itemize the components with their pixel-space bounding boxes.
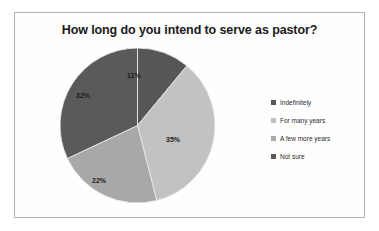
legend-marker-icon	[271, 154, 276, 159]
chart-legend: Indefinitely For many years A few more y…	[271, 95, 363, 167]
slice-label-indefinitely: 11%	[127, 72, 141, 79]
chart-frame: How long do you intend to serve as pasto…	[14, 12, 365, 218]
legend-item-for-many-years[interactable]: For many years	[271, 113, 363, 128]
legend-item-indefinitely[interactable]: Indefinitely	[271, 95, 363, 110]
legend-item-label: For many years	[280, 117, 325, 124]
slice-label-for-many-years: 35%	[166, 136, 180, 143]
legend-item-label: A few more years	[280, 135, 330, 142]
legend-item-a-few-more-years[interactable]: A few more years	[271, 131, 363, 146]
pie-chart: 11% 35% 22% 32%	[60, 48, 220, 208]
legend-item-label: Indefinitely	[280, 99, 311, 106]
slice-label-not-sure: 32%	[76, 92, 90, 99]
legend-marker-icon	[271, 136, 276, 141]
slice-label-a-few-more-years: 22%	[92, 177, 106, 184]
legend-item-label: Not sure	[280, 153, 305, 160]
chart-title: How long do you intend to serve as pasto…	[15, 23, 364, 37]
legend-marker-icon	[271, 118, 276, 123]
legend-item-not-sure[interactable]: Not sure	[271, 149, 363, 164]
legend-marker-icon	[271, 100, 276, 105]
